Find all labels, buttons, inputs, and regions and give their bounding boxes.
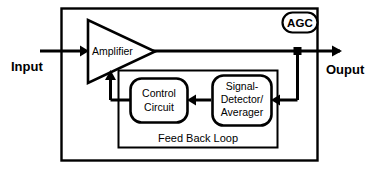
output-port-label: Ouput [326, 62, 365, 77]
input-signal-path [40, 46, 89, 57]
signal-detector-label-line1: Signal- [226, 80, 259, 92]
signal-detector-label-line3: Averager [221, 106, 264, 118]
signal-detector-label-line2: Detector/ [221, 93, 264, 105]
diagram-canvas: AGC Input Ouput Amplifier Control Circui… [0, 0, 376, 169]
control-circuit-label-line1: Control [142, 87, 176, 99]
input-port-label: Input [11, 59, 43, 74]
control-circuit-label-line2: Circuit [144, 101, 174, 113]
output-signal-path [153, 46, 342, 57]
feedback-loop-label: Feed Back Loop [158, 132, 238, 144]
amplifier-label: Amplifier [92, 45, 133, 57]
feedback-tap-path [271, 51, 298, 106]
agc-badge: AGC [283, 13, 318, 33]
agc-block-diagram: AGC Input Ouput Amplifier Control Circui… [0, 0, 376, 169]
output-arrowhead-icon [332, 46, 342, 57]
detector-to-control-path [187, 95, 211, 106]
agc-badge-label: AGC [287, 17, 313, 29]
